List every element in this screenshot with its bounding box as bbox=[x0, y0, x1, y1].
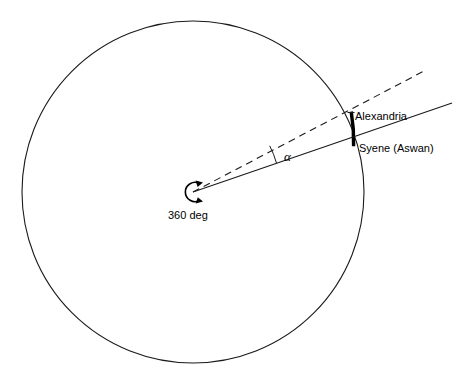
syene-label: Syene (Aswan) bbox=[359, 142, 434, 154]
rotation-arrowhead-top bbox=[196, 180, 203, 187]
alpha-angle-arc bbox=[270, 146, 277, 163]
alexandria-ray-dashed bbox=[193, 70, 426, 192]
rotation-arrowhead-bottom bbox=[196, 197, 203, 203]
eratosthenes-diagram: α Alexandria Syene (Aswan) 360 deg bbox=[0, 0, 467, 383]
diagram-canvas: α Alexandria Syene (Aswan) 360 deg bbox=[0, 0, 467, 383]
rotation-degrees-label: 360 deg bbox=[168, 209, 208, 221]
alpha-angle-label: α bbox=[284, 149, 292, 164]
alexandria-label: Alexandria bbox=[355, 110, 408, 122]
